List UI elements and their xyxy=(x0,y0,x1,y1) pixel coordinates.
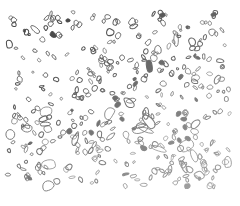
blob-outline xyxy=(90,181,94,184)
blob-outline xyxy=(119,54,125,61)
blob-outline xyxy=(88,109,95,115)
blob-outline xyxy=(220,27,225,33)
blob-outline xyxy=(37,58,42,63)
blob-outline xyxy=(182,65,186,70)
blob-outline xyxy=(32,130,37,136)
blob-outline xyxy=(38,131,44,138)
blob-outline xyxy=(183,81,190,88)
blob-outline xyxy=(216,58,224,63)
blob-outline xyxy=(93,75,96,78)
blob-outline xyxy=(149,174,153,180)
blob-outline xyxy=(55,15,60,20)
blob-outline xyxy=(21,125,32,133)
blob-outline xyxy=(37,148,43,154)
blob-outline xyxy=(71,10,76,14)
blob-outline xyxy=(71,123,78,130)
blob-outline xyxy=(150,144,167,153)
blob-outline xyxy=(101,19,106,24)
blob-outline xyxy=(44,26,48,31)
blob-outline xyxy=(156,67,162,73)
blob-outline xyxy=(38,170,43,175)
blob-outline xyxy=(214,164,221,171)
blob-outline xyxy=(156,103,161,107)
blob-outline xyxy=(224,156,232,168)
blob-outline xyxy=(220,64,225,69)
blob-outline xyxy=(217,90,220,93)
blob-outline-drawing xyxy=(0,0,240,206)
blob-outline xyxy=(27,141,32,145)
blob-outline xyxy=(156,112,161,115)
blob-outline xyxy=(217,108,224,115)
blob-outline xyxy=(97,154,101,158)
blob-outline xyxy=(106,119,112,124)
blob-outline xyxy=(171,134,176,141)
blob-outline xyxy=(88,129,95,136)
blob-outline xyxy=(11,118,17,124)
blob-outline xyxy=(76,21,83,28)
blob-outline xyxy=(192,134,198,141)
blob-outline xyxy=(42,171,46,175)
blob-outline xyxy=(177,35,181,38)
blob-outline xyxy=(99,79,102,84)
blob-outline xyxy=(123,183,128,189)
blob-outline xyxy=(90,15,96,21)
blob-outline xyxy=(48,102,54,106)
blob-outline xyxy=(161,105,166,110)
blob-outline xyxy=(78,176,83,183)
blob-outline xyxy=(24,123,31,130)
blob-outline xyxy=(133,77,136,80)
blob-outline xyxy=(11,140,16,144)
blob-outline xyxy=(25,144,27,147)
blob-outline xyxy=(60,97,63,100)
blob-outline xyxy=(5,173,11,176)
blob-outline xyxy=(206,56,212,63)
blob-outline xyxy=(66,128,72,135)
blob-outline xyxy=(31,71,34,73)
blob-outline xyxy=(91,84,98,92)
blob-outline xyxy=(87,67,90,70)
blob-outline xyxy=(110,91,115,95)
blob-outline xyxy=(212,74,222,84)
blob-outline xyxy=(56,120,61,126)
blob-outline xyxy=(75,70,79,75)
blob-outline xyxy=(170,91,173,96)
blob-outline xyxy=(102,106,116,121)
blob-outline xyxy=(221,158,229,165)
blob-outline xyxy=(105,27,115,37)
blob-outline xyxy=(13,105,16,110)
blob-outline xyxy=(183,182,191,190)
blob-outline xyxy=(190,128,199,136)
blob-outline xyxy=(83,89,89,94)
blob-texture-image: Line drawing of many irregular rounded b… xyxy=(0,0,240,206)
blob-outline xyxy=(143,48,150,55)
blob-outline xyxy=(75,86,79,93)
blob-outline xyxy=(192,85,198,90)
blob-outline xyxy=(211,175,214,180)
blob-outline xyxy=(176,67,179,70)
blob-outline xyxy=(113,40,116,43)
blob-outline xyxy=(129,23,138,29)
blob-outline xyxy=(119,112,124,116)
blob-outline xyxy=(110,126,116,131)
blob-outline xyxy=(102,48,107,54)
blob-outline xyxy=(203,34,207,40)
blob-outline xyxy=(166,43,171,50)
blob-outline xyxy=(81,46,86,51)
blob-outline xyxy=(84,138,88,144)
blob-outline xyxy=(142,59,147,61)
blob-outline xyxy=(12,113,16,118)
blob-outline xyxy=(214,150,221,156)
blob-outline xyxy=(134,179,140,181)
blob-outline xyxy=(132,160,135,163)
blob-outline xyxy=(218,77,225,81)
blob-outline xyxy=(141,54,146,60)
blob-outline xyxy=(39,85,44,88)
blob-outline xyxy=(48,92,53,96)
blob-outline xyxy=(24,160,28,164)
blob-outline xyxy=(204,167,207,171)
blob-outline xyxy=(51,54,57,60)
blob-outline xyxy=(194,97,198,101)
blob-outline xyxy=(198,83,204,89)
blob-outline xyxy=(226,87,231,93)
blob-outline xyxy=(191,72,196,77)
